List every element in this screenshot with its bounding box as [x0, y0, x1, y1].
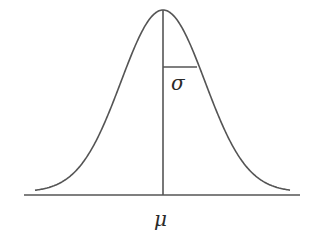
normal-distribution-diagram: σ μ	[0, 0, 320, 242]
mu-label: μ	[154, 207, 167, 231]
sigma-label: σ	[171, 71, 186, 95]
